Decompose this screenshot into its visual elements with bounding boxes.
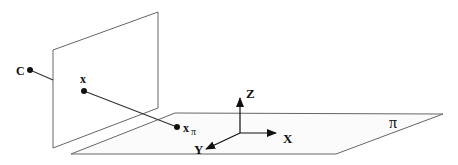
label-axis-z: Z [246, 86, 255, 101]
ray-x-to-xpi [84, 91, 177, 127]
label-camera-center: C [16, 64, 25, 78]
label-plane-point: x [183, 121, 189, 135]
plane-point [174, 124, 180, 130]
label-plane-point-subscript: π [191, 126, 196, 137]
camera-center-point [27, 67, 33, 73]
label-plane-pi: π [389, 114, 397, 131]
image-point [81, 88, 87, 94]
projection-diagram: C x x π Z X Y π [0, 0, 458, 165]
label-axis-y: Y [194, 142, 204, 157]
label-axis-x: X [283, 131, 293, 146]
label-image-point: x [80, 72, 86, 86]
ray-c-segment [30, 70, 53, 80]
